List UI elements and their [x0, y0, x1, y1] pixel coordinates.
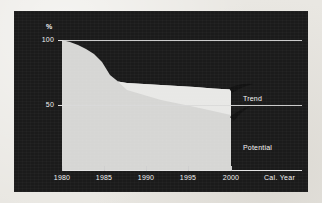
y-axis-unit-label: %	[46, 23, 52, 30]
area-fill-group	[14, 11, 308, 192]
gridline-100	[62, 40, 302, 41]
y-tick-100	[58, 40, 63, 41]
y-tick-50	[58, 105, 63, 106]
chart-root: % 100 50 1980 1985 1990 1995 2000 Cal. Y…	[0, 0, 322, 203]
x-tick-label-1985: 1985	[96, 174, 112, 181]
x-axis-line	[62, 170, 302, 171]
x-tick-1980	[62, 166, 63, 171]
x-tick-1990	[146, 166, 147, 171]
annotation-trend: Trend	[243, 95, 262, 102]
y-tick-label-50: 50	[28, 101, 54, 108]
x-axis-title: Cal. Year	[264, 174, 295, 181]
x-tick-1985	[104, 166, 105, 171]
x-tick-label-1980: 1980	[54, 174, 70, 181]
x-tick-2000	[231, 166, 232, 171]
y-tick-label-100: 100	[28, 36, 54, 43]
x-tick-label-1995: 1995	[180, 174, 196, 181]
plot-area: % 100 50 1980 1985 1990 1995 2000 Cal. Y…	[14, 11, 308, 192]
annotation-potential: Potential	[243, 144, 272, 151]
gridline-50	[62, 105, 302, 106]
x-tick-label-1990: 1990	[138, 174, 154, 181]
chart-panel: % 100 50 1980 1985 1990 1995 2000 Cal. Y…	[14, 11, 308, 192]
x-tick-1995	[188, 166, 189, 171]
x-tick-label-2000: 2000	[223, 174, 239, 181]
